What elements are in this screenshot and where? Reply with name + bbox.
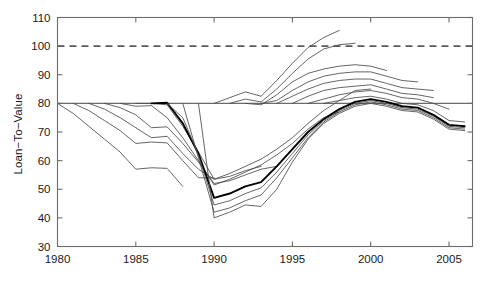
axes-frame	[58, 18, 473, 247]
reference-line-group	[58, 46, 473, 103]
y-tick-label: 90	[38, 69, 51, 81]
series-line-cohort-1983	[104, 103, 276, 183]
y-tick-label: 30	[38, 241, 51, 253]
x-tick-label: 1995	[280, 253, 306, 265]
y-tick-label: 110	[32, 12, 50, 24]
series-line-cohort-1984	[120, 103, 339, 185]
series-line-cohort-1992	[245, 65, 386, 105]
series-line-cohort-1989	[198, 103, 464, 218]
chart-figure: Loan−To−Value 30405060708090100110 19801…	[0, 0, 490, 284]
series-line-cohort-1991	[230, 43, 355, 103]
x-tick-label: 2000	[358, 253, 384, 265]
series-line-cohort-1986	[151, 99, 464, 198]
y-tick-label: 70	[38, 126, 51, 138]
x-tick-label: 1990	[201, 253, 227, 265]
plot-border	[58, 18, 473, 247]
x-tick-label: 1980	[45, 253, 71, 265]
y-tick-label: 50	[38, 183, 51, 195]
line-chart-plot: 30405060708090100110 1980198519901995200…	[0, 0, 490, 284]
x-tick-label: 1985	[123, 253, 149, 265]
y-tick-label: 100	[31, 40, 50, 52]
y-tick-label: 80	[38, 97, 51, 109]
series-line-cohort-1980	[58, 103, 183, 186]
series-line-cohort-1985	[136, 89, 371, 179]
series-line-cohort-1982	[89, 103, 261, 179]
series-group	[58, 30, 465, 218]
y-tick-label: 60	[38, 155, 51, 167]
y-axis-tick-group: 30405060708090100110	[31, 12, 472, 253]
series-line-cohort-1981	[73, 103, 214, 177]
x-tick-label: 2005	[436, 253, 462, 265]
y-tick-label: 40	[38, 212, 51, 224]
series-line-cohort-1990	[214, 30, 339, 103]
